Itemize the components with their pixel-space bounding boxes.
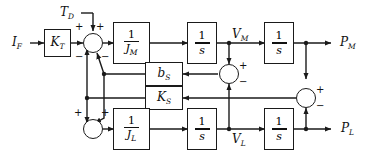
load-torque-summer[interactable] bbox=[83, 119, 103, 139]
load-position-sub: L bbox=[349, 128, 354, 137]
motor-inertia-numerator: 1 bbox=[128, 29, 135, 41]
velocity-difference-summer[interactable] bbox=[219, 64, 239, 84]
signal-label-motor-position: PM bbox=[340, 36, 356, 51]
motor-summer-sign-right-minus: − bbox=[101, 52, 109, 62]
motor-velocity-sub: M bbox=[241, 34, 249, 43]
motor-torque-summer[interactable] bbox=[83, 33, 103, 53]
motor-integrator-1-label: 1 s bbox=[195, 30, 210, 55]
block-motor-inertia[interactable]: 1 JM bbox=[113, 22, 150, 64]
numerator: 1 bbox=[199, 116, 206, 128]
torque-constant-label: KT bbox=[51, 36, 65, 51]
block-load-integrator-1[interactable]: 1 s bbox=[187, 108, 217, 150]
block-torque-constant[interactable]: KT bbox=[44, 29, 71, 57]
node-vl-tap bbox=[227, 127, 231, 131]
signal-label-load-position: PL bbox=[341, 122, 354, 137]
disturbance-torque-sub: D bbox=[68, 12, 74, 21]
wiring-layer bbox=[0, 0, 368, 163]
motor-summer-sign-left-minus: − bbox=[75, 52, 83, 62]
signal-label-load-velocity: VL bbox=[232, 133, 246, 148]
shaft-damping-label: bS bbox=[158, 67, 171, 82]
motor-position-sub: M bbox=[348, 42, 356, 51]
numerator: 1 bbox=[276, 116, 283, 128]
block-shaft-stiffness[interactable]: KS bbox=[145, 86, 183, 110]
node-pl-tap bbox=[304, 127, 308, 131]
position-summer-sign-minus: − bbox=[316, 101, 324, 111]
motor-inertia-label: 1 JM bbox=[124, 29, 139, 57]
numerator: 1 bbox=[276, 30, 283, 42]
motor-summer-sign-left-plus: + bbox=[75, 22, 83, 32]
torque-constant-sub: T bbox=[59, 42, 64, 51]
load-integrator-2-label: 1 s bbox=[272, 116, 287, 141]
load-velocity-sub: L bbox=[241, 139, 246, 148]
block-shaft-damping[interactable]: bS bbox=[145, 62, 183, 86]
denominator: s bbox=[199, 130, 205, 142]
input-current-sub: F bbox=[17, 42, 22, 51]
signal-label-disturbance-torque: TD bbox=[60, 6, 74, 21]
load-inertia-label: 1 JL bbox=[124, 115, 139, 143]
block-load-integrator-2[interactable]: 1 s bbox=[264, 108, 294, 150]
motor-summer-sign-top-plus: + bbox=[96, 22, 104, 32]
block-motor-integrator-1[interactable]: 1 s bbox=[187, 22, 217, 64]
load-inertia-denominator: JL bbox=[127, 128, 136, 143]
shaft-stiffness-sub: S bbox=[166, 97, 171, 106]
motor-integrator-2-label: 1 s bbox=[272, 30, 287, 55]
denominator: s bbox=[199, 44, 205, 56]
denominator: s bbox=[276, 44, 282, 56]
position-difference-summer[interactable] bbox=[296, 88, 316, 108]
block-load-inertia[interactable]: 1 JL bbox=[113, 108, 150, 150]
numerator: 1 bbox=[128, 115, 135, 127]
node-pm-tap bbox=[304, 41, 308, 45]
shaft-damping-sub: S bbox=[165, 73, 170, 82]
signal-label-input-current: IF bbox=[12, 36, 22, 51]
position-summer-sign-plus: + bbox=[316, 85, 324, 95]
load-integrator-1-label: 1 s bbox=[195, 116, 210, 141]
shaft-stiffness-label: KS bbox=[157, 91, 171, 106]
velocity-summer-sign-minus: − bbox=[239, 77, 247, 87]
node-vm-tap bbox=[227, 41, 231, 45]
load-summer-sign-left-plus: + bbox=[74, 108, 82, 118]
block-motor-integrator-2[interactable]: 1 s bbox=[264, 22, 294, 64]
velocity-summer-sign-plus: + bbox=[239, 61, 247, 71]
motor-inertia-denominator: JM bbox=[125, 42, 137, 57]
denominator: s bbox=[276, 130, 282, 142]
load-summer-sign-right-plus: + bbox=[101, 108, 109, 118]
block-diagram-canvas: KT 1 JM 1 s 1 s bS KS 1 JL bbox=[0, 0, 368, 163]
numerator: 1 bbox=[199, 30, 206, 42]
signal-label-motor-velocity: VM bbox=[232, 28, 248, 43]
